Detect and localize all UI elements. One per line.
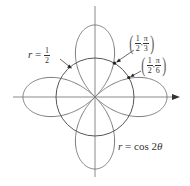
- intersection-point-pi-3: [113, 62, 116, 65]
- point2-label: (12,π6): [140, 55, 167, 75]
- circle-equation-label: r = 1 2: [28, 46, 50, 65]
- arrowhead-icon: [130, 74, 135, 78]
- polar-diagram: [0, 0, 190, 186]
- fraction: 1 2: [44, 46, 50, 65]
- point1-label: (12,π3): [128, 33, 155, 53]
- rose-equation-label: r = cos 2θ: [118, 141, 162, 152]
- intersection-point-pi-6: [127, 76, 130, 79]
- x-axis-arrow-icon: [172, 94, 180, 100]
